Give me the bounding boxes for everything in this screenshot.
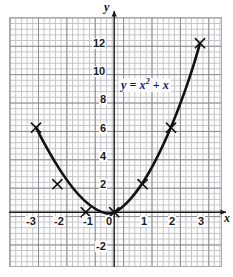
- equation-linear-term: x: [163, 78, 169, 92]
- x-tick-label-1: 1: [140, 216, 148, 227]
- origin-label: 0: [105, 216, 113, 227]
- equation-lhs: y: [121, 78, 127, 92]
- x-tick-label-3: 3: [197, 216, 205, 227]
- plot-canvas: [0, 0, 233, 277]
- y-tick-label-4: 4: [99, 151, 107, 162]
- x-tick-label-neg2: -2: [53, 216, 65, 227]
- y-tick-label-10: 10: [92, 66, 106, 77]
- y-tick-label-2: 2: [99, 179, 107, 190]
- equation-equals: =: [130, 78, 137, 92]
- y-tick-label-12: 12: [92, 38, 106, 49]
- y-axis-arrowhead: [112, 11, 117, 17]
- equation-annotation: y = x2 + x: [119, 78, 171, 92]
- graph-figure: -3 -2 -1 0 1 2 3 12 10 8 6 4 2 -2 y x y …: [0, 0, 233, 277]
- y-tick-label-neg2: -2: [95, 241, 107, 252]
- equation-plus: +: [153, 78, 160, 92]
- x-tick-label-neg1: -1: [82, 216, 94, 227]
- y-tick-label-6: 6: [99, 123, 107, 134]
- data-point-marker: [31, 123, 40, 132]
- equation-exponent: 2: [146, 77, 150, 86]
- x-axis-label: x: [224, 212, 230, 224]
- y-tick-label-8: 8: [99, 94, 107, 105]
- x-tick-label-neg3: -3: [25, 216, 37, 227]
- x-tick-label-2: 2: [168, 216, 176, 227]
- data-point-marker: [53, 180, 62, 189]
- y-axis-label: y: [104, 1, 109, 13]
